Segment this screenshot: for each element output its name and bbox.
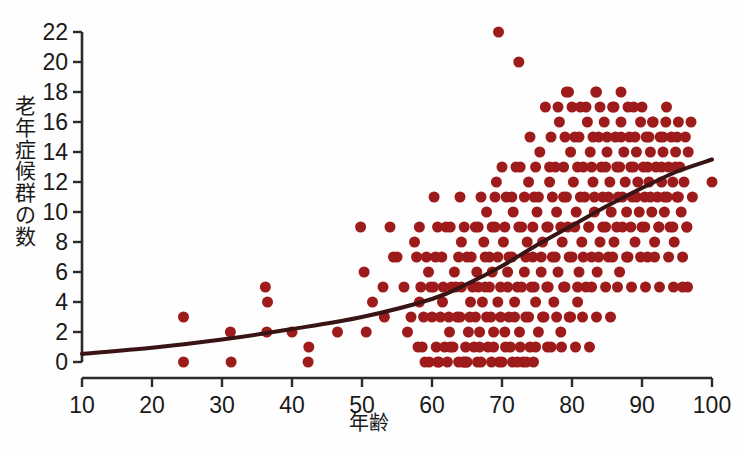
data-point <box>406 312 417 323</box>
data-point <box>411 252 422 263</box>
data-point <box>542 342 553 353</box>
data-point <box>462 252 473 263</box>
data-point <box>529 282 540 293</box>
data-point <box>523 312 534 323</box>
data-points-group <box>178 27 718 368</box>
y-tick-label: 16 <box>42 109 68 135</box>
x-tick-label: 30 <box>209 392 235 418</box>
data-point <box>658 147 669 158</box>
data-point <box>484 282 495 293</box>
data-point <box>553 267 564 278</box>
data-point <box>413 342 424 353</box>
y-tick-label: 2 <box>55 319 68 345</box>
data-point <box>560 132 571 143</box>
data-point <box>443 312 454 323</box>
data-point <box>491 177 502 188</box>
data-point <box>178 312 189 323</box>
data-point <box>649 237 660 248</box>
data-point <box>359 267 370 278</box>
data-point <box>465 297 476 308</box>
data-point <box>605 312 616 323</box>
data-point <box>659 192 670 203</box>
data-point <box>481 312 492 323</box>
y-tick-label: 20 <box>42 49 68 75</box>
data-point <box>509 312 520 323</box>
data-point <box>554 117 565 128</box>
data-point <box>455 192 466 203</box>
data-point <box>586 162 597 173</box>
data-point <box>574 132 585 143</box>
data-point <box>570 342 581 353</box>
data-point <box>487 222 498 233</box>
data-point <box>494 357 505 368</box>
data-point <box>565 312 576 323</box>
data-point <box>490 192 501 203</box>
data-point <box>673 117 684 128</box>
data-point <box>464 312 475 323</box>
y-tick-label: 18 <box>42 79 68 105</box>
data-point <box>438 282 449 293</box>
data-point <box>474 327 485 338</box>
data-point <box>575 192 586 203</box>
data-point <box>528 357 539 368</box>
data-point <box>673 192 684 203</box>
data-point <box>499 327 510 338</box>
data-point <box>367 297 378 308</box>
data-point <box>585 147 596 158</box>
data-point <box>543 282 554 293</box>
data-point <box>536 267 547 278</box>
data-point <box>260 282 271 293</box>
data-point <box>519 192 530 203</box>
data-point <box>583 222 594 233</box>
data-point <box>679 177 690 188</box>
data-point <box>432 222 443 233</box>
data-point <box>588 177 599 188</box>
data-point <box>637 102 648 113</box>
data-point <box>572 297 583 308</box>
data-point <box>632 177 643 188</box>
data-point <box>707 177 718 188</box>
data-point <box>449 267 460 278</box>
data-point <box>565 147 576 158</box>
data-point <box>472 357 483 368</box>
data-point <box>456 237 467 248</box>
data-point <box>541 222 552 233</box>
data-point <box>515 342 526 353</box>
data-point <box>670 147 681 158</box>
data-point <box>498 237 509 248</box>
data-point <box>556 342 567 353</box>
data-point <box>547 192 558 203</box>
data-point <box>533 327 544 338</box>
data-point <box>606 207 617 218</box>
data-point <box>499 222 510 233</box>
data-point <box>667 222 678 233</box>
data-point <box>574 267 585 278</box>
data-point <box>683 147 694 158</box>
y-tick-label: 4 <box>55 289 68 315</box>
data-point <box>595 237 606 248</box>
data-point <box>488 327 499 338</box>
data-point <box>593 252 604 263</box>
data-point <box>578 252 589 263</box>
data-point <box>392 252 403 263</box>
data-point <box>568 177 579 188</box>
data-point <box>616 132 627 143</box>
data-point <box>659 207 670 218</box>
data-point <box>581 102 592 113</box>
data-point <box>681 222 692 233</box>
data-point <box>492 297 503 308</box>
data-point <box>506 192 517 203</box>
data-point <box>445 342 456 353</box>
data-point <box>599 117 610 128</box>
data-point <box>600 282 611 293</box>
data-point <box>649 252 660 263</box>
data-point <box>332 327 343 338</box>
data-point <box>530 297 541 308</box>
data-point <box>667 177 678 188</box>
data-point <box>533 192 544 203</box>
data-point <box>553 102 564 113</box>
data-point <box>509 297 520 308</box>
data-point <box>544 177 555 188</box>
data-point <box>616 117 627 128</box>
data-point <box>686 117 697 128</box>
